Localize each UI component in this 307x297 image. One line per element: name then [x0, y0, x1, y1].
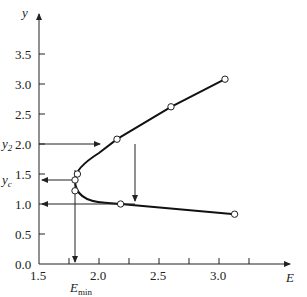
svg-text:1.0: 1.0 [15, 197, 31, 212]
svg-text:3.0: 3.0 [210, 268, 226, 283]
chart-svg: 1.52.02.53.00.00.51.01.52.02.53.03.5 y E… [0, 0, 307, 297]
axes [39, 14, 290, 264]
svg-text:2.5: 2.5 [15, 107, 31, 122]
svg-text:2.0: 2.0 [15, 137, 31, 152]
yc-label: yc [0, 172, 12, 189]
y-axis-label: y [20, 5, 28, 20]
svg-text:2.0: 2.0 [90, 268, 106, 283]
svg-text:0.0: 0.0 [15, 257, 31, 272]
x-axis-label: E [285, 270, 294, 285]
svg-text:0.5: 0.5 [15, 227, 31, 242]
specific-energy-chart: 1.52.02.53.00.00.51.01.52.02.53.03.5 y E… [0, 0, 307, 297]
svg-text:1.5: 1.5 [15, 167, 31, 182]
svg-text:1.5: 1.5 [30, 268, 46, 283]
svg-text:3.0: 3.0 [15, 77, 31, 92]
y2-label: y2 [0, 136, 13, 153]
emin-label: Emin [69, 280, 92, 297]
svg-text:2.5: 2.5 [150, 268, 166, 283]
svg-text:3.5: 3.5 [15, 47, 31, 62]
